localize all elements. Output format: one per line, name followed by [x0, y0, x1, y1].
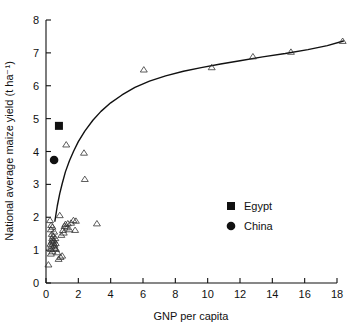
fit-curve-group	[55, 41, 344, 221]
data-point-triangle	[93, 220, 100, 225]
x-tick-label: 12	[234, 288, 246, 300]
data-point-china	[50, 156, 59, 165]
y-tick-label: 4	[33, 146, 39, 158]
data-points-group	[45, 38, 346, 267]
data-point-triangle	[140, 67, 147, 72]
x-tick-label: 14	[266, 288, 278, 300]
y-tick-label: 6	[33, 80, 39, 92]
fit-curve-line	[55, 41, 344, 221]
y-axis-title: National average maize yield (t ha⁻¹)	[3, 61, 15, 241]
legend-label-china: China	[244, 220, 274, 232]
data-point-triangle	[81, 150, 88, 155]
x-tick-label: 10	[202, 288, 214, 300]
legend-label-egypt: Egypt	[244, 200, 272, 212]
legend-marker-china	[227, 222, 236, 231]
x-tick-label: 18	[331, 288, 343, 300]
y-tick-label: 1	[33, 244, 39, 256]
data-point-triangle	[56, 212, 63, 217]
maize-yield-scatter-chart: 024681012141618 012345678 GNP per capita…	[0, 0, 358, 330]
y-tick-label: 7	[33, 47, 39, 59]
x-tick-label: 4	[108, 288, 114, 300]
y-tick-label: 2	[33, 211, 39, 223]
x-tick-label: 0	[43, 288, 49, 300]
data-point-egypt	[55, 122, 63, 130]
x-tick-label: 8	[172, 288, 178, 300]
chart-legend: EgyptChina	[227, 200, 274, 232]
data-point-triangle	[47, 217, 54, 222]
data-point-triangle	[81, 176, 88, 181]
figure-container: 024681012141618 012345678 GNP per capita…	[0, 0, 358, 330]
y-tick-label: 8	[33, 14, 39, 26]
axes-group	[46, 20, 337, 283]
x-tick-label: 2	[75, 288, 81, 300]
y-tick-label: 5	[33, 113, 39, 125]
legend-marker-egypt	[227, 202, 235, 210]
x-axis-title: GNP per capita	[153, 310, 229, 322]
x-tick-label: 6	[140, 288, 146, 300]
x-tick-label: 16	[299, 288, 311, 300]
y-tick-label: 3	[33, 178, 39, 190]
caption-strip	[0, 322, 358, 330]
x-axis-ticks: 024681012141618	[43, 278, 343, 300]
y-tick-label: 0	[33, 277, 39, 289]
data-point-triangle	[63, 142, 70, 147]
